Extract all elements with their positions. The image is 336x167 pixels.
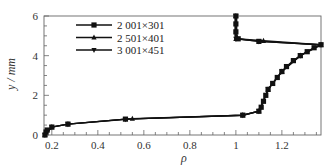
marker-square	[49, 124, 54, 129]
x-axis: 0.20.40.60.811.2	[45, 130, 316, 151]
marker-square	[259, 105, 264, 110]
y-axis: 0246	[33, 10, 50, 141]
y-tick-label: 4	[33, 50, 39, 62]
chart: 0.20.40.60.811.2 0246 2 001×3012 501×401…	[0, 0, 336, 167]
legend-label: 2 001×301	[117, 19, 164, 31]
x-tick-label: 0.2	[45, 139, 59, 151]
y-tick-label: 2	[33, 89, 39, 101]
series-square	[42, 13, 323, 137]
marker-square	[318, 42, 323, 47]
x-tick-label: 0.4	[91, 139, 105, 151]
series-triangle-down	[42, 14, 323, 138]
marker-square	[311, 45, 316, 50]
y-tick-label: 6	[33, 10, 39, 22]
legend-label: 3 001×451	[117, 44, 164, 56]
x-tick-label: 1.2	[275, 139, 289, 151]
x-tick-label: 1	[233, 139, 239, 151]
legend-item: 2 501×401	[76, 32, 164, 44]
x-axis-title: ρ	[180, 151, 187, 165]
series-layer	[42, 13, 323, 138]
marker-square	[275, 75, 280, 80]
marker-square	[45, 127, 50, 132]
marker-square	[91, 22, 96, 27]
marker-square	[284, 64, 289, 69]
marker-square	[240, 113, 245, 118]
marker-square	[65, 121, 70, 126]
marker-square	[261, 99, 266, 104]
y-axis-title: y / mm	[4, 58, 18, 91]
legend-label: 2 501×401	[117, 32, 164, 44]
legend-item: 2 001×301	[76, 19, 164, 31]
x-tick-label: 0.6	[137, 139, 151, 151]
marker-square	[305, 49, 310, 54]
legend-item: 3 001×451	[76, 44, 164, 56]
marker-square	[291, 58, 296, 63]
marker-square	[123, 117, 128, 122]
marker-square	[270, 81, 275, 86]
marker-square	[279, 69, 284, 74]
series-triangle-up	[42, 13, 323, 137]
marker-square	[265, 87, 270, 92]
marker-square	[298, 53, 303, 58]
marker-square	[256, 39, 261, 44]
x-tick-label: 0.8	[183, 139, 197, 151]
marker-square	[263, 93, 268, 98]
legend: 2 001×3012 501×4013 001×451	[76, 19, 164, 56]
y-tick-label: 0	[33, 129, 39, 141]
